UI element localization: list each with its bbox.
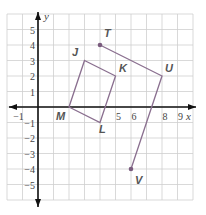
y-tick-label: 3: [30, 56, 35, 67]
x-axis-label: x: [185, 110, 191, 122]
y-axis-label: y: [43, 10, 49, 22]
y-tick-label: −2: [24, 133, 35, 144]
x-tick-label: 6: [132, 111, 137, 122]
y-tick-label: −4: [24, 164, 35, 175]
axes: y x: [9, 10, 196, 207]
point-label-k: K: [119, 62, 128, 74]
point-v-dot: [129, 167, 134, 172]
point-label-l: L: [99, 123, 106, 135]
x-tick-label: 9: [178, 111, 183, 122]
y-tick-label: 4: [30, 40, 35, 51]
y-tick-label: 5: [30, 25, 35, 36]
y-tick-label: 2: [30, 71, 35, 82]
coordinate-plane: y x −1568954321−1−2−3−4−5 J K L M T U V: [0, 0, 206, 215]
x-tick-label: −1: [13, 111, 24, 122]
y-tick-label: −1: [24, 118, 35, 129]
y-tick-label: 1: [30, 87, 35, 98]
x-axis-left-arrow-icon: [9, 104, 17, 110]
point-label-u: U: [165, 62, 174, 74]
point-t-dot: [98, 43, 103, 48]
point-label-t: T: [104, 27, 112, 39]
y-tick-label: −5: [24, 180, 35, 191]
point-label-j: J: [72, 46, 79, 58]
y-axis-up-arrow-icon: [35, 12, 41, 20]
y-tick-label: −3: [24, 149, 35, 160]
x-tick-label: 8: [163, 111, 168, 122]
point-label-m: M: [56, 110, 66, 122]
y-axis-down-arrow-icon: [35, 199, 41, 207]
x-tick-label: 5: [116, 111, 121, 122]
